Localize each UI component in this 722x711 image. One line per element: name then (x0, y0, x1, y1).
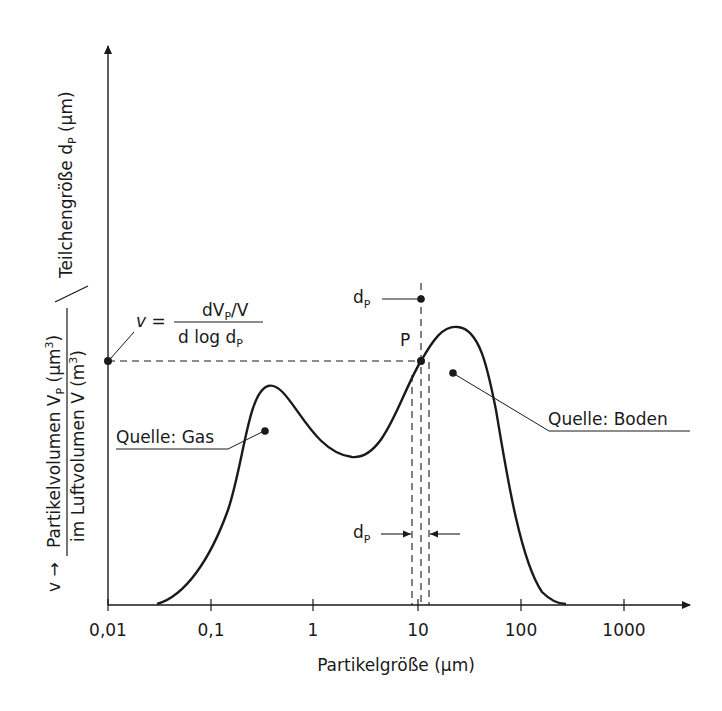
x-tick-label: 1000 (602, 620, 645, 640)
y-label-slash (55, 286, 88, 302)
y-label-denominator: im Luftvolumen V (m3) (67, 350, 88, 542)
y-axis-point (104, 357, 112, 365)
dp-top-point (417, 295, 425, 303)
x-tick-label: 0,1 (197, 620, 224, 640)
y-axis-label: v → Partikelvolumen VP (µm3) im Luftvolu… (43, 91, 88, 592)
y-label-numerator: Partikelvolumen VP (µm3) (43, 335, 67, 548)
x-axis-label: Partikelgröße (µm) (317, 655, 475, 675)
x-tick-label: 100 (505, 620, 537, 640)
distribution-curve (157, 327, 566, 604)
particle-size-distribution-chart: 0,01 0,1 1 10 100 1000 Partikelgröße (µm… (0, 0, 722, 711)
y-label-slash-term: Teilchengröße dP (µm) (56, 91, 79, 279)
point-p (417, 357, 425, 365)
dp-top-label: dP (353, 287, 371, 311)
point-p-label: P (400, 330, 410, 350)
source-gas-label: Quelle: Gas (116, 427, 214, 447)
formula-lhs: v = (136, 311, 166, 331)
x-tick-label: 1 (308, 620, 319, 640)
x-tick-label: 10 (407, 620, 429, 640)
x-tick-label: 0,01 (89, 620, 127, 640)
y-label-prefix: v → (44, 562, 64, 592)
formula-denominator: d log dP (178, 327, 243, 350)
source-gas-point (261, 427, 269, 435)
source-soil-point (449, 369, 457, 377)
formula-leader (111, 332, 134, 358)
dp-bottom-label: dP (353, 522, 371, 546)
volume-density-formula: v = dVP/V d log dP (136, 300, 263, 350)
formula-numerator: dVP/V (202, 300, 249, 323)
source-soil-label: Quelle: Boden (548, 409, 668, 429)
